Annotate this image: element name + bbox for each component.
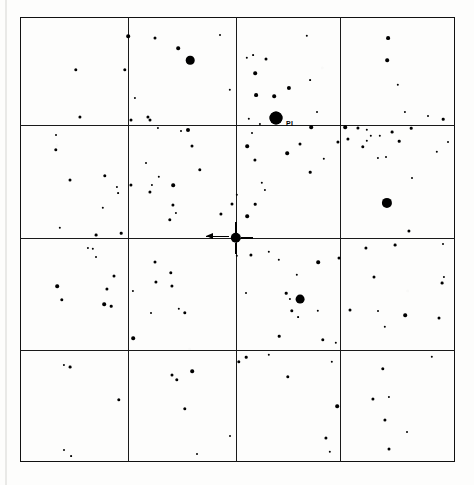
star-point [131,336,135,340]
star-point [438,317,441,320]
star-point [385,156,387,158]
star-point [110,305,113,308]
star-point [272,94,276,98]
star-point [102,302,106,306]
star-point [254,203,257,206]
star-point [398,140,401,143]
star-point [126,34,130,38]
star-point [229,435,231,437]
star-point [154,37,157,40]
star-point [150,312,152,314]
star-point [191,145,194,148]
star-chart-figure: PI [0,0,474,485]
star-point [285,151,289,155]
star-point [149,119,152,122]
star-point [442,118,445,121]
star-point [373,276,376,279]
star-point [385,58,389,62]
grid-line-horizontal-2 [20,238,455,239]
star-point [117,192,119,194]
star-point [394,244,397,247]
star-point [196,453,198,455]
star-point [377,310,379,312]
grid-line-horizontal-3 [20,350,455,351]
star-point [252,54,254,56]
star-point [113,275,116,278]
star-point [427,115,429,117]
star-point [335,404,339,408]
star-point [190,369,194,373]
star-point [285,292,288,295]
star-point [70,455,72,457]
star-point [411,177,413,179]
star-point [254,93,258,97]
star-point [171,183,175,187]
star-point [391,131,394,134]
star-point [278,335,281,338]
star-point [386,36,390,40]
star-point [245,144,249,148]
star-point [388,448,391,451]
star-point [309,79,311,81]
star-point [296,295,305,304]
star-point [231,203,234,206]
star-point [186,56,195,65]
star-point [145,162,147,164]
star-point [180,130,182,132]
star-point [245,292,247,294]
grid-line-vertical-2 [236,17,237,462]
star-point [120,232,123,235]
star-point [309,125,313,129]
star-point [309,171,312,174]
star-point [154,261,157,264]
star-point [245,356,248,359]
star-pi [270,112,283,125]
star-point [441,282,444,285]
star-point [338,257,341,260]
star-point [55,284,59,288]
star-point [299,143,302,146]
star-point [442,243,444,245]
star-point [265,58,268,61]
star-point [297,316,299,318]
star-point [245,214,249,218]
star-point [406,431,408,433]
grid-line-vertical-1 [128,17,129,462]
target-arrow-head [206,233,213,239]
star-point [186,128,190,132]
star-point [69,179,72,182]
star-point [130,119,133,122]
grid-line-vertical-3 [340,17,341,462]
star-point [316,260,320,264]
star-point [69,366,72,369]
star-point [95,256,97,258]
star-point [171,374,174,377]
star-point [343,125,347,129]
star-point [253,71,257,75]
star-point [95,234,98,237]
star-point [219,34,221,36]
star-point [316,111,318,113]
star-point [349,309,352,312]
star-point [410,127,413,130]
star-point [55,134,57,136]
page-margin-rule [5,0,7,485]
star-label-pi: PI [286,120,293,127]
chart-frame-border [20,17,455,462]
star-point [63,449,65,451]
grid-line-horizontal-1 [20,125,455,126]
star-point [251,132,253,134]
star-point [176,46,180,50]
star-point [403,313,407,317]
star-point [447,141,449,143]
